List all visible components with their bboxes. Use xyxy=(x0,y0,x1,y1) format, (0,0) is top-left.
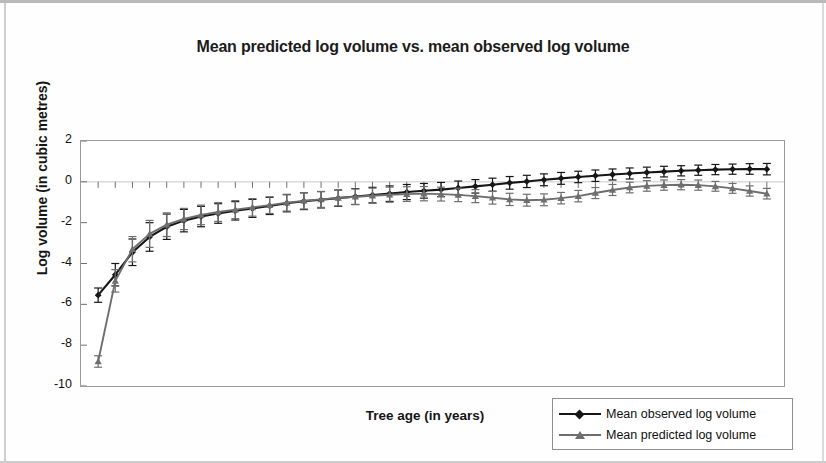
legend-marker-observed xyxy=(559,407,601,421)
legend-item-observed[interactable]: Mean observed log volume xyxy=(559,403,786,424)
page-edge-right xyxy=(822,3,824,463)
page-edge-left xyxy=(4,3,6,463)
legend-marker-predicted xyxy=(559,428,601,442)
legend-item-predicted[interactable]: Mean predicted log volume xyxy=(559,424,786,445)
plot-svg xyxy=(81,141,784,386)
chart-figure: Mean predicted log volume vs. mean obser… xyxy=(0,0,826,463)
y-tick-label: -4 xyxy=(38,255,72,269)
chart-legend: Mean observed log volume Mean predicted … xyxy=(552,398,793,450)
chart-title: Mean predicted log volume vs. mean obser… xyxy=(0,38,826,56)
x-axis-title: Tree age (in years) xyxy=(300,408,550,423)
y-tick-label: -2 xyxy=(38,214,72,228)
y-tick-label: 0 xyxy=(38,173,72,187)
legend-label-predicted: Mean predicted log volume xyxy=(606,428,756,442)
plot-area xyxy=(80,140,785,387)
y-tick-label: -10 xyxy=(38,377,72,391)
y-tick-label: -8 xyxy=(38,336,72,350)
y-tick-label: -6 xyxy=(38,295,72,309)
legend-label-observed: Mean observed log volume xyxy=(606,407,756,421)
y-tick-label: 2 xyxy=(38,132,72,146)
page-edge-top xyxy=(0,0,826,3)
